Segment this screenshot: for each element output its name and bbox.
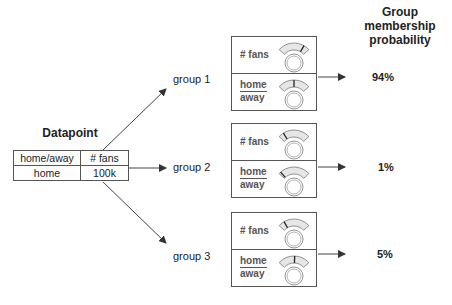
group-1-box: # fans home away — [231, 36, 317, 111]
feature-label-fans: # fans — [240, 49, 269, 60]
group-3-probability: 5% — [377, 248, 393, 260]
group-1-probability: 94% — [372, 71, 394, 83]
gauge-icon — [276, 215, 312, 249]
feature-label-home-away: home away — [240, 166, 267, 191]
arrow-to-group-3 — [103, 182, 166, 243]
group-3-home-away-cell: home away — [232, 249, 316, 286]
feature-label-away: away — [240, 179, 264, 190]
group-1-fans-cell: # fans — [232, 37, 316, 73]
datapoint-value-row: home 100k — [14, 166, 129, 181]
group-2-fans-cell: # fans — [232, 124, 316, 160]
feature-label-home: home — [240, 166, 267, 179]
feature-label-fans: # fans — [240, 136, 269, 147]
gauge-icon — [276, 163, 312, 197]
probability-header-line2: probability — [350, 33, 450, 47]
gauge-icon — [276, 76, 312, 110]
datapoint-title: Datapoint — [10, 126, 130, 140]
feature-label-home-away: home away — [240, 255, 267, 280]
group-1-label: group 1 — [173, 73, 210, 85]
probability-header: Group membership probability — [350, 5, 450, 47]
gauge-icon — [276, 126, 312, 160]
feature-label-away: away — [240, 92, 264, 103]
feature-label-home-away: home away — [240, 79, 267, 104]
feature-label-home: home — [240, 79, 267, 92]
feature-label-away: away — [240, 268, 264, 279]
gauge-icon — [276, 39, 312, 73]
group-3-box: # fans home away — [231, 212, 317, 287]
datapoint-col-fans: # fans — [81, 151, 129, 166]
datapoint-value-home-away: home — [14, 166, 81, 181]
group-3-fans-cell: # fans — [232, 213, 316, 249]
datapoint-table: home/away # fans home 100k — [13, 150, 129, 181]
feature-label-fans: # fans — [240, 225, 269, 236]
gauge-icon — [276, 252, 312, 286]
group-2-probability: 1% — [378, 161, 394, 173]
group-2-label: group 2 — [173, 161, 210, 173]
datapoint-header-row: home/away # fans — [14, 151, 129, 166]
probability-header-line1: Group membership — [350, 5, 450, 33]
datapoint-value-fans: 100k — [81, 166, 129, 181]
group-2-home-away-cell: home away — [232, 160, 316, 197]
arrow-to-group-1 — [103, 89, 166, 150]
group-2-box: # fans home away — [231, 123, 317, 198]
group-1-home-away-cell: home away — [232, 73, 316, 110]
datapoint-col-home-away: home/away — [14, 151, 81, 166]
group-3-label: group 3 — [173, 250, 210, 262]
feature-label-home: home — [240, 255, 267, 268]
